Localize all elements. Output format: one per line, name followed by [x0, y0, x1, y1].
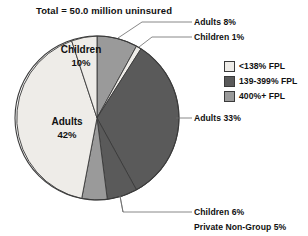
legend-item-0: <138% FPL: [224, 59, 297, 73]
callout-adults-8: Adults 8%: [194, 17, 236, 27]
slice-label-children-10-pct: 10%: [44, 57, 118, 69]
callout-private-non-group-5: Private Non-Group 5%: [194, 222, 286, 232]
callout-children-6: Children 6%: [194, 207, 244, 217]
callout-adults-33: Adults 33%: [194, 113, 241, 123]
legend-swatch-icon-2: [224, 91, 235, 102]
leader-line-private-non-group-5: [120, 196, 123, 212]
slice-label-adults-42-pct: 42%: [30, 129, 104, 141]
legend-label-0: <138% FPL: [239, 61, 285, 71]
slice-label-adults-42-name: Adults: [51, 116, 82, 127]
pie-chart-figure: Total = 50.0 million uninsured: [0, 0, 308, 236]
legend-label-2: 400%+ FPL: [239, 91, 285, 101]
legend-swatch-icon-1: [224, 76, 235, 87]
slice-label-children-10-name: Children: [61, 44, 102, 55]
leader-line-adults-8: [118, 22, 192, 38]
callout-children-1: Children 1%: [194, 32, 244, 42]
leader-line-children-6: [120, 196, 192, 212]
legend-item-1: 139-399% FPL: [224, 74, 297, 88]
slice-label-children-10: Children 10%: [44, 44, 118, 68]
leader-line-children-1: [139, 37, 192, 47]
legend-item-2: 400%+ FPL: [224, 89, 297, 103]
legend-swatch-icon-0: [224, 61, 235, 72]
slice-label-adults-42: Adults 42%: [30, 116, 104, 140]
legend-label-1: 139-399% FPL: [239, 76, 297, 86]
chart-legend: <138% FPL 139-399% FPL 400%+ FPL: [224, 59, 297, 104]
